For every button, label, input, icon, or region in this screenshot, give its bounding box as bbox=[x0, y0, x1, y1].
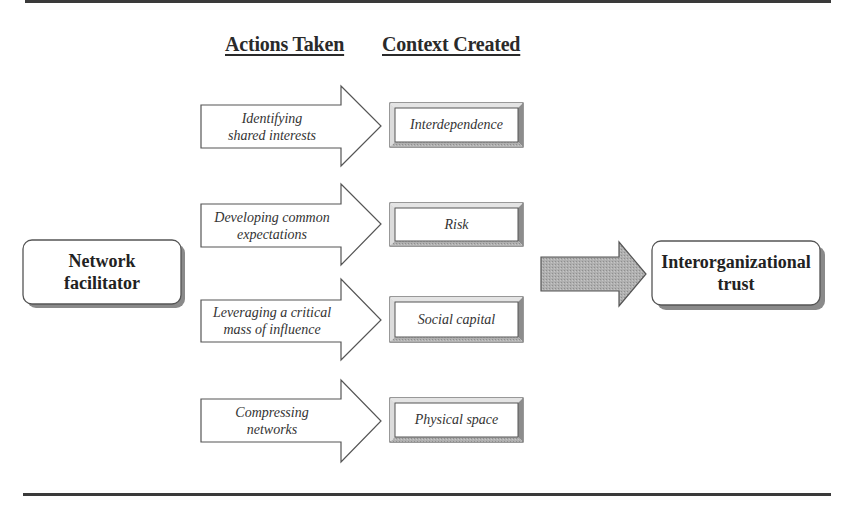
action-label-2-line1: Developing common bbox=[214, 209, 329, 226]
action-label-3: Leveraging a critical mass of influence bbox=[201, 300, 343, 342]
action-label-4-line1: Compressing bbox=[235, 404, 308, 421]
context-label-1: Interdependence bbox=[395, 108, 518, 142]
target-node-line2: trust bbox=[718, 273, 755, 295]
target-node-interorganizational-trust: Interorganizational trust bbox=[652, 241, 820, 305]
big-arrow-shape bbox=[541, 242, 646, 306]
action-label-4: Compressing networks bbox=[201, 399, 343, 442]
action-label-3-line2: mass of influence bbox=[223, 321, 320, 338]
action-label-1-line2: shared interests bbox=[228, 127, 316, 144]
source-node-network-facilitator: Network facilitator bbox=[23, 240, 181, 304]
source-node-line2: facilitator bbox=[64, 272, 140, 294]
action-label-2: Developing common expectations bbox=[201, 204, 343, 247]
context-label-4: Physical space bbox=[395, 403, 518, 437]
context-label-2: Risk bbox=[395, 208, 518, 241]
action-label-1-line1: Identifying bbox=[242, 110, 303, 127]
context-label-3: Social capital bbox=[395, 302, 518, 337]
source-node-line1: Network bbox=[69, 250, 136, 272]
action-label-3-line1: Leveraging a critical bbox=[213, 304, 331, 321]
target-node-line1: Interorganizational bbox=[661, 251, 811, 273]
action-label-2-line2: expectations bbox=[237, 226, 307, 243]
action-label-1: Identifying shared interests bbox=[201, 105, 343, 148]
action-label-4-line2: networks bbox=[247, 421, 298, 438]
